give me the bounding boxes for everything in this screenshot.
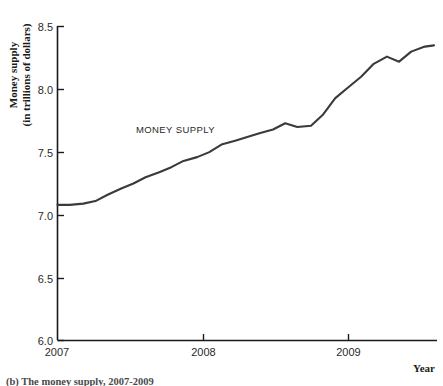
money-supply-data-line: [58, 45, 434, 205]
y-axis-title: Money supply (in trillions of dollars): [7, 23, 33, 126]
x-axis-ticks: [204, 334, 349, 341]
y-tick-label-6-5: 6.5: [38, 273, 53, 285]
x-tick-label-2007: 2007: [45, 346, 69, 358]
y-tick-label-8-5: 8.5: [38, 21, 53, 33]
y-tick-label-6-0: 6.0: [38, 335, 53, 347]
figure-caption: (b) The money supply, 2007-2009: [6, 376, 436, 386]
series-annotation-money-supply: MONEY SUPPLY: [136, 124, 215, 135]
y-axis-title-line1: Money supply: [7, 41, 19, 108]
y-axis-ticks: [58, 27, 65, 341]
x-tick-label-2009: 2009: [336, 346, 360, 358]
y-tick-label-7-5: 7.5: [38, 147, 53, 159]
y-tick-label-8-0: 8.0: [38, 84, 53, 96]
x-axis-title: Year: [413, 362, 435, 374]
figure-panel: 8.5 8.0 7.5 7.0 6.5 6.0 2007 2008 2009 Y…: [0, 0, 443, 386]
y-tick-label-7-0: 7.0: [38, 210, 53, 222]
money-supply-line-chart: 8.5 8.0 7.5 7.0 6.5 6.0 2007 2008 2009 Y…: [0, 0, 443, 386]
y-axis-title-line2: (in trillions of dollars): [20, 23, 33, 126]
x-tick-label-2008: 2008: [191, 346, 215, 358]
